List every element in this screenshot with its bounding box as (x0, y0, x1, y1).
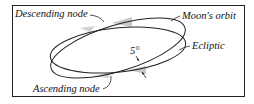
label-inclination-angle: 5° (130, 46, 139, 57)
angle-arrow-upper-head (137, 59, 140, 62)
label-ecliptic: Ecliptic (192, 41, 225, 52)
label-ascending-node: Ascending node (33, 84, 100, 95)
label-descending-node: Descending node (15, 9, 88, 20)
shade-wedge-upper (112, 17, 132, 27)
shade-wedge-upper-left (80, 26, 95, 32)
descending-node-leader (90, 15, 104, 22)
ecliptic-ellipse (48, 21, 188, 79)
label-moons-orbit: Moon's orbit (182, 11, 236, 22)
ascending-node-leader (103, 76, 111, 89)
